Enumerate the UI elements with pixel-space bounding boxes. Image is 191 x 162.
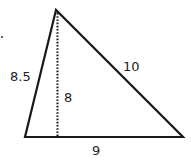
triangle-outline <box>25 10 183 137</box>
left-side-label: 8.5 <box>10 69 31 84</box>
altitude-label: 8 <box>64 90 72 105</box>
stray-dot <box>1 36 3 38</box>
right-side-label: 10 <box>123 59 140 74</box>
triangle-diagram: 8.5 10 8 9 <box>0 0 191 162</box>
base-label: 9 <box>92 143 100 158</box>
